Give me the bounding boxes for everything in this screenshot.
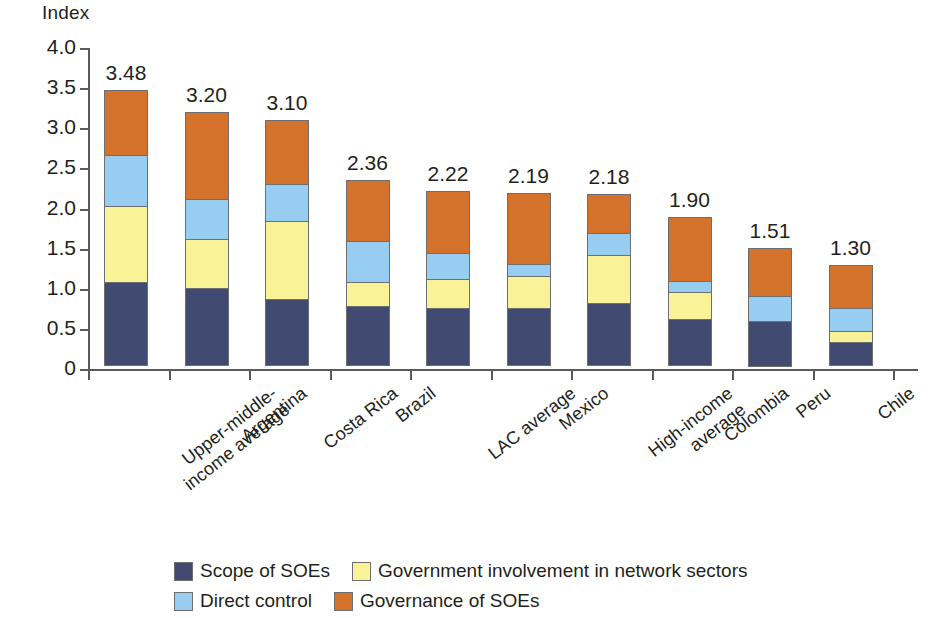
y-axis-tick-label: 2.0 <box>20 196 76 220</box>
stacked-bar[interactable] <box>185 112 229 365</box>
bar-segment[interactable] <box>346 241 390 283</box>
bar-segment[interactable] <box>507 308 551 366</box>
legend-item-label: Scope of SOEs <box>200 560 330 582</box>
bar-segment[interactable] <box>668 319 712 366</box>
y-axis-tick-label: 1.0 <box>20 276 76 300</box>
bar-segment[interactable] <box>507 193 551 264</box>
bar-segment[interactable] <box>829 308 873 332</box>
bar-segment[interactable] <box>265 184 309 222</box>
bar-segment[interactable] <box>507 276 551 310</box>
legend-item-label: Governance of SOEs <box>360 590 540 612</box>
legend-item-label: Government involvement in network sector… <box>378 560 748 582</box>
bar-segment[interactable] <box>748 248 792 297</box>
bar-segment[interactable] <box>104 90 148 156</box>
stacked-bar[interactable] <box>829 265 873 365</box>
bar-segment[interactable] <box>587 233 631 255</box>
y-axis-tick-label: 4.0 <box>20 35 76 59</box>
stacked-bar[interactable] <box>587 194 631 365</box>
y-axis-tick-label: 3.5 <box>20 75 76 99</box>
x-axis-tick <box>571 371 573 380</box>
bar-segment[interactable] <box>587 194 631 234</box>
x-axis-category-label: Costa Rica <box>320 383 402 454</box>
x-axis-line <box>88 369 918 371</box>
y-axis-tick-label: 0 <box>20 356 76 380</box>
stacked-bar[interactable] <box>346 180 390 365</box>
x-axis-tick <box>813 371 815 380</box>
chart-plot-area: 4.03.53.02.52.01.51.00.50 3.483.203.102.… <box>0 0 929 520</box>
stacked-bar[interactable] <box>748 248 792 366</box>
bar-segment[interactable] <box>185 199 229 239</box>
y-axis-tick <box>80 209 89 211</box>
bar-value-label: 2.19 <box>484 164 574 188</box>
y-axis-tick-label: 3.0 <box>20 115 76 139</box>
x-axis-tick <box>732 371 734 380</box>
bar-value-label: 2.36 <box>323 151 413 175</box>
bar-value-label: 3.48 <box>81 61 171 85</box>
bar-segment[interactable] <box>748 296 792 322</box>
bar-segment[interactable] <box>426 253 470 279</box>
bar-segment[interactable] <box>104 282 148 366</box>
bar-segment[interactable] <box>426 191 470 254</box>
y-axis-tick <box>80 249 89 251</box>
bar-segment[interactable] <box>104 155 148 208</box>
bar-segment[interactable] <box>587 255 631 305</box>
bar-segment[interactable] <box>668 292 712 320</box>
x-axis-category-label: Chile <box>873 383 918 425</box>
x-axis-tick <box>88 371 90 380</box>
x-axis-tick <box>410 371 412 380</box>
bar-segment[interactable] <box>426 308 470 366</box>
bar-segment[interactable] <box>265 221 309 300</box>
legend-swatch-icon <box>334 592 353 611</box>
bar-segment[interactable] <box>185 112 229 200</box>
x-axis-category-label: Peru <box>792 383 835 423</box>
bar-segment[interactable] <box>185 239 229 290</box>
stacked-bar[interactable] <box>104 90 148 365</box>
bar-value-label: 3.10 <box>242 91 332 115</box>
bar-value-label: 1.90 <box>645 188 735 212</box>
legend-item-label: Direct control <box>200 590 312 612</box>
y-axis-tick <box>80 168 89 170</box>
legend-item[interactable]: Government involvement in network sector… <box>352 560 748 582</box>
x-axis-tick <box>249 371 251 380</box>
bar-segment[interactable] <box>104 206 148 282</box>
bar-segment[interactable] <box>748 321 792 367</box>
legend-item[interactable]: Direct control <box>174 590 312 612</box>
stacked-bar[interactable] <box>507 193 551 365</box>
legend-row: Scope of SOEsGovernment involvement in n… <box>174 556 814 586</box>
x-axis-tick <box>491 371 493 380</box>
bar-segment[interactable] <box>346 180 390 243</box>
bar-segment[interactable] <box>668 217 712 283</box>
y-axis-tick <box>80 48 89 50</box>
y-axis-tick <box>80 88 89 90</box>
bar-value-label: 2.22 <box>403 162 493 186</box>
x-axis-category-label: Brazil <box>391 383 440 427</box>
bar-segment[interactable] <box>829 265 873 309</box>
y-axis-tick <box>80 329 89 331</box>
bar-value-label: 3.20 <box>162 83 252 107</box>
x-axis-tick <box>652 371 654 380</box>
bar-value-label: 1.30 <box>806 236 896 260</box>
bar-segment[interactable] <box>265 299 309 366</box>
stacked-bar[interactable] <box>426 191 470 365</box>
bar-segment[interactable] <box>426 279 470 309</box>
bar-value-label: 1.51 <box>725 219 815 243</box>
bar-segment[interactable] <box>265 120 309 185</box>
chart-legend: Scope of SOEsGovernment involvement in n… <box>174 556 814 616</box>
legend-swatch-icon <box>174 592 193 611</box>
bar-segment[interactable] <box>185 288 229 366</box>
legend-swatch-icon <box>174 562 193 581</box>
legend-row: Direct controlGovernance of SOEs <box>174 586 814 616</box>
bar-segment[interactable] <box>587 303 631 366</box>
x-axis-tick <box>893 371 895 380</box>
legend-item[interactable]: Governance of SOEs <box>334 590 540 612</box>
stacked-bar[interactable] <box>668 217 712 365</box>
bar-segment[interactable] <box>829 342 873 366</box>
bar-segment[interactable] <box>346 282 390 307</box>
bar-segment[interactable] <box>346 306 390 366</box>
stacked-bar[interactable] <box>265 120 309 365</box>
legend-item[interactable]: Scope of SOEs <box>174 560 330 582</box>
y-axis-tick-label: 1.5 <box>20 236 76 260</box>
bar-value-label: 2.18 <box>564 165 654 189</box>
y-axis-tick-label: 0.5 <box>20 316 76 340</box>
x-axis-tick <box>330 371 332 380</box>
